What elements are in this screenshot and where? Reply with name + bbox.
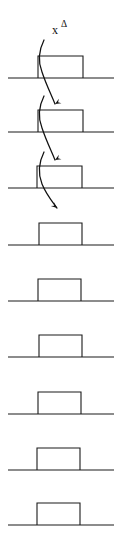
figure-canvas: x Δ xyxy=(0,0,122,544)
figure-background xyxy=(0,0,122,544)
label-delta-superscript: Δ xyxy=(61,19,67,29)
pulse-sequence-figure: x Δ xyxy=(0,0,122,544)
label-x-base: x xyxy=(52,23,58,37)
